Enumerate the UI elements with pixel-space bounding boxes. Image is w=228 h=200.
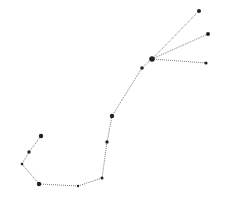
constellation-line <box>152 59 206 63</box>
star-dot <box>204 61 207 64</box>
constellation-line <box>22 164 39 184</box>
star-dot <box>21 163 24 166</box>
star-dot <box>110 114 114 118</box>
constellation-line <box>112 68 142 116</box>
constellation-line <box>39 184 78 186</box>
star-dot <box>140 66 144 70</box>
star-dot <box>37 182 41 186</box>
star-dot <box>105 140 108 143</box>
star-dot <box>27 150 30 153</box>
constellation-line <box>152 34 208 59</box>
constellation-line <box>152 11 199 59</box>
constellation-diagram <box>0 0 228 200</box>
star-dot <box>39 134 43 138</box>
constellation-line <box>78 178 102 186</box>
constellation-stars <box>21 9 210 187</box>
constellation-lines <box>22 11 208 186</box>
star-dot <box>149 56 155 62</box>
star-dot <box>197 9 201 13</box>
star-dot <box>101 177 104 180</box>
star-dot <box>206 32 210 36</box>
constellation-line <box>29 136 41 152</box>
star-dot <box>77 185 79 187</box>
constellation-line <box>107 116 112 142</box>
constellation-line <box>102 142 107 178</box>
constellation-line <box>22 152 29 164</box>
